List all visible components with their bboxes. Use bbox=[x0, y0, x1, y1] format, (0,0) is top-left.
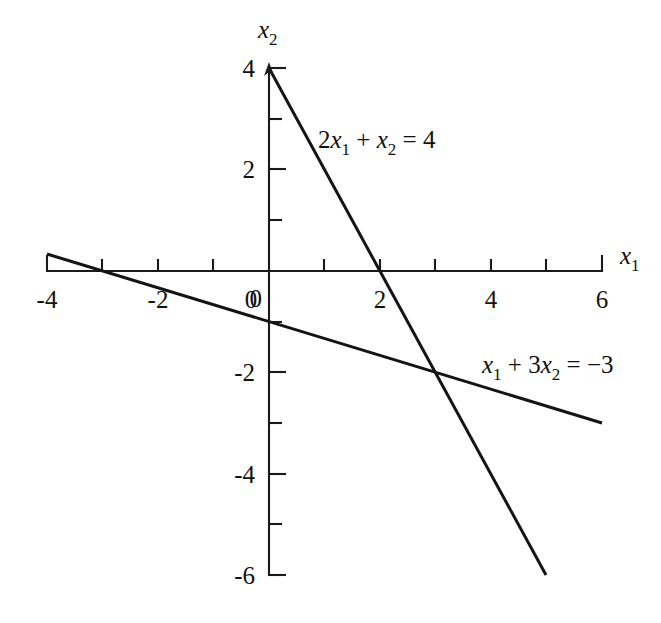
y-tick-label-4: 4 bbox=[243, 55, 256, 82]
y-tick-label-minus6: -6 bbox=[234, 562, 255, 589]
annotation-equation-one: 2x1 + x2 = 4 bbox=[318, 126, 436, 159]
y-tick-label-minus2: -2 bbox=[234, 359, 255, 386]
y-tick-label-minus4: -4 bbox=[234, 461, 255, 488]
y-tick-label-zero: 0 bbox=[250, 285, 263, 312]
x-tick-label-4: 4 bbox=[485, 286, 498, 313]
x-tick-label-6: 6 bbox=[596, 286, 609, 313]
annotation-equation-two: x1 + 3x2 = −3 bbox=[481, 351, 614, 384]
x-tick-label-2: 2 bbox=[374, 286, 387, 313]
plot-svg: -4 -2 0 2 4 6 4 2 0 -2 -4 -6 x1 x2 2x1 +… bbox=[0, 0, 661, 623]
y-tick-label-2: 2 bbox=[243, 156, 256, 183]
x-tick-label-minus2: -2 bbox=[148, 286, 169, 313]
x-axis-title: x1 bbox=[619, 242, 640, 275]
series-line-x1-plus-3x2-eq-minus3 bbox=[47, 254, 602, 423]
chart-figure: -4 -2 0 2 4 6 4 2 0 -2 -4 -6 x1 x2 2x1 +… bbox=[0, 0, 661, 623]
x-tick-label-minus4: -4 bbox=[37, 286, 58, 313]
x-axis-ticks bbox=[47, 255, 602, 271]
y-axis-title: x2 bbox=[257, 16, 278, 49]
